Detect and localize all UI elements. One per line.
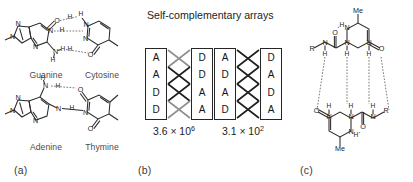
array-cell: D (221, 70, 228, 80)
atom-h: H (79, 10, 84, 17)
panel-a: N N N N O N H H N N O H (0, 0, 135, 182)
r-group-left: R (309, 44, 314, 53)
atom-o: O (88, 50, 94, 59)
atom-h: H (345, 50, 350, 57)
atom-n: N (56, 104, 61, 113)
ureidopyrimidinone-dimer-structure: N N N O N O Me R H H H H (285, 0, 413, 160)
atom-h: H (371, 102, 376, 109)
array-cell: D (152, 88, 159, 98)
thymine-structure: O N O (78, 85, 118, 133)
atom-n: N (33, 42, 38, 51)
panel-c-label: (c) (300, 164, 313, 176)
methyl-top: Me (353, 6, 363, 15)
guanine-label: Guanine (18, 70, 74, 80)
array-cell: D (152, 105, 159, 115)
k-exponent: 6 (191, 124, 195, 133)
atom-h: H (327, 102, 332, 109)
atom-n: N (15, 19, 20, 28)
atom-h: H (349, 102, 354, 109)
atom-h: H (51, 56, 56, 63)
panel-a-label: (a) (14, 164, 27, 176)
atom-o: O (379, 44, 385, 53)
adenine-structure: N N N N H N (5, 74, 61, 126)
atom-h: H (60, 26, 65, 33)
guanine-structure: N N N N O N H H (5, 16, 66, 63)
atom-h: H (56, 82, 61, 89)
upy-monomer-top: N N N O N O Me R H H H H (309, 6, 384, 57)
atom-n: N (344, 23, 349, 32)
array-cell: A (153, 53, 160, 63)
thymine-label: Thymine (74, 142, 130, 152)
array-cell: D (198, 70, 205, 80)
array-cell: A (222, 53, 229, 63)
array-2-hydrogen-bond-linker (236, 48, 260, 120)
array-cell: D (267, 53, 274, 63)
atom-h: H (323, 50, 328, 57)
array-2-left-column: A D A D (214, 48, 236, 120)
array-2-right-column: D A D A (260, 48, 282, 120)
methyl-bottom: Me (335, 144, 345, 153)
k-mantissa: 3.1 × 10 (222, 126, 260, 137)
array-cell: A (153, 70, 160, 80)
array-1-association-constant: 3.6 × 106 (137, 124, 211, 137)
self-complementary-arrays-title: Self-complementary arrays (147, 9, 275, 22)
array-1-left-column: A A D D (145, 48, 167, 120)
atom-h: H (68, 13, 73, 20)
atom-o: O (360, 122, 366, 131)
adenine-label: Adenine (18, 142, 74, 152)
atom-h: H (61, 45, 66, 52)
array-cell: A (199, 105, 206, 115)
array-cell: D (221, 105, 228, 115)
array-cell: D (267, 88, 274, 98)
array-1-hydrogen-bond-linker (167, 48, 191, 120)
cytosine-structure: N N O H (79, 10, 118, 59)
atom-n: N (83, 34, 88, 43)
atom-n: N (53, 47, 58, 56)
atom-o: O (332, 28, 338, 37)
r-group-right: R (383, 106, 388, 115)
array-cell: D (198, 53, 205, 63)
array-cell: A (268, 105, 275, 115)
panel-b-label: (b) (138, 164, 151, 176)
upy-monomer-bottom: N N N O N O Me R H H H H (314, 102, 389, 153)
atom-n: N (10, 106, 15, 115)
atom-o: O (314, 106, 320, 115)
atom-n: N (83, 108, 88, 117)
array-cell: A (222, 88, 229, 98)
atom-h: H (340, 21, 345, 28)
k-exponent: 2 (260, 124, 264, 133)
atom-h: H (70, 104, 75, 111)
atom-h: H (354, 131, 359, 138)
atom-n: N (83, 20, 88, 29)
atom-n: N (33, 116, 38, 125)
k-mantissa: 3.6 × 10 (153, 126, 191, 137)
atom-n: N (15, 93, 20, 102)
array-cell: A (268, 70, 275, 80)
array-1-right-column: D D A A (191, 48, 213, 120)
array-cell: A (199, 88, 206, 98)
atom-o: O (54, 16, 60, 25)
panel-b: Self-complementary arrays A A D D D D A … (135, 0, 285, 182)
base-pair-structures: N N N N O N H H N N O H (0, 0, 135, 165)
atom-h: H (367, 50, 372, 57)
atom-n: N (10, 32, 15, 41)
atom-o: O (78, 85, 84, 94)
atom-n: N (48, 26, 53, 35)
array-2-association-constant: 3.1 × 102 (206, 124, 280, 137)
atom-h: H (68, 45, 73, 52)
cytosine-label: Cytosine (74, 70, 130, 80)
atom-o: O (88, 124, 94, 133)
panel-c: N N N O N O Me R H H H H (285, 0, 413, 182)
